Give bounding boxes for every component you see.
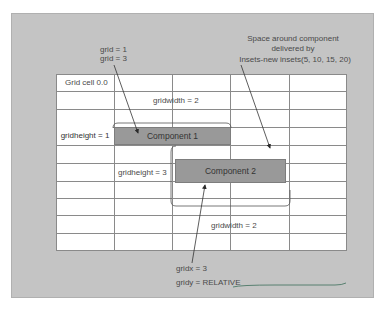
- insets-note-line1: Space around component: [228, 34, 358, 44]
- gridwidth-top-label: gridwidth = 2: [153, 96, 199, 106]
- grid-line: [56, 109, 347, 110]
- gridheight-1-label: gridheight = 1: [57, 127, 113, 144]
- grid-line: [346, 74, 347, 251]
- grid-line: [56, 91, 347, 92]
- insets-note-line3: Insets-new insets(5, 10, 15, 20): [225, 55, 365, 65]
- grid-note-line2: grid = 3: [100, 54, 127, 64]
- grid-line: [289, 74, 290, 251]
- gridy-label: gridy = RELATIVE: [176, 278, 241, 288]
- grid-line: [56, 250, 347, 251]
- grid-line: [56, 74, 57, 251]
- gridx-label: gridx = 3: [176, 264, 207, 274]
- component-1: Component 1: [114, 127, 231, 145]
- component-2: Component 2: [175, 159, 286, 183]
- grid-line: [56, 233, 347, 234]
- gridheight-3-label: gridheight = 3: [118, 168, 167, 178]
- grid-line: [56, 74, 347, 75]
- grid-line: [56, 145, 347, 146]
- grid-line: [56, 215, 347, 216]
- gridwidth-bottom-label: gridwidth = 2: [211, 221, 257, 231]
- component-2-label: Component 2: [205, 166, 256, 176]
- grid-line: [56, 198, 347, 199]
- grid-line: [114, 74, 115, 251]
- component-1-label: Component 1: [147, 131, 198, 141]
- grid-cell-label: Grid cell 0.0: [65, 78, 108, 88]
- insets-note-line2: delivered by: [228, 44, 358, 54]
